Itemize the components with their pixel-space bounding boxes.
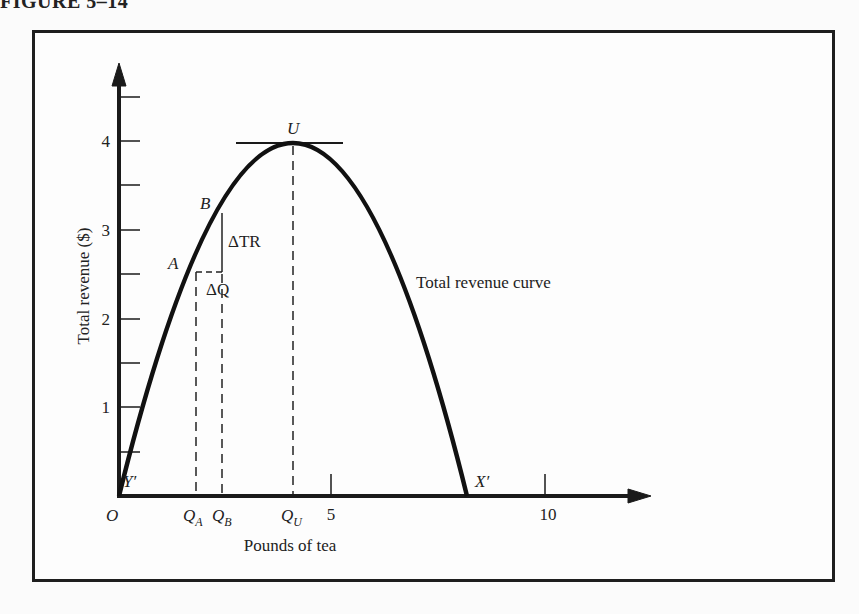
y-tick-label-3: 3 — [102, 221, 111, 240]
y-axis-title: Total revenue ($) — [74, 228, 93, 345]
point-labels: U A B Y′ X′ — [123, 119, 489, 491]
x-ticks — [331, 474, 545, 494]
y-tick-labels: 1 2 3 4 — [102, 132, 111, 417]
y-ticks — [121, 97, 140, 452]
origin-label: O — [106, 506, 118, 525]
delta-labels: ΔTR ΔQ — [206, 232, 261, 299]
guide-lines — [196, 146, 293, 494]
axes — [112, 63, 651, 503]
point-b-label: B — [200, 194, 211, 213]
y-prime-label: Y′ — [123, 472, 136, 491]
x-axis-arrow-icon — [628, 489, 651, 503]
y-axis-arrow-icon — [112, 63, 126, 86]
y-tick-label-4: 4 — [102, 132, 111, 151]
x-tick-label-5: 5 — [327, 505, 336, 524]
delta-q-label: ΔQ — [206, 280, 229, 299]
curve-label: Total revenue curve — [416, 273, 551, 292]
x-axis-title: Pounds of tea — [244, 536, 337, 555]
q-b-label: QB — [212, 506, 232, 529]
q-u-label: QU — [281, 506, 303, 529]
x-tick-label-10: 10 — [540, 505, 557, 524]
q-labels: QA QB QU — [183, 506, 303, 529]
point-u-label: U — [287, 119, 301, 138]
y-tick-label-2: 2 — [102, 310, 111, 329]
x-tick-labels: 5 10 — [327, 505, 557, 524]
delta-tr-label: ΔTR — [228, 232, 261, 251]
total-revenue-chart: 1 2 3 4 5 10 Total revenue ($) Pounds of… — [0, 0, 859, 614]
q-a-label: QA — [183, 506, 203, 529]
point-a-label: A — [167, 254, 179, 273]
y-tick-label-1: 1 — [102, 398, 111, 417]
x-prime-label: X′ — [474, 472, 489, 491]
